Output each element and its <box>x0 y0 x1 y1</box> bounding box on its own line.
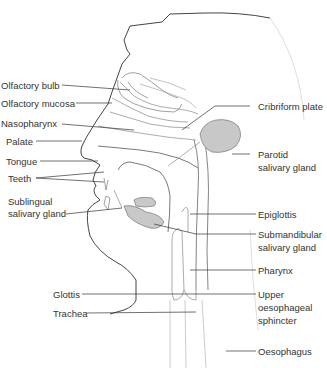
label-teeth: Teeth <box>8 173 31 184</box>
head-profile-outline <box>81 13 270 314</box>
label-olfactory-bulb: Olfactory bulb <box>1 80 60 91</box>
airway-tube <box>172 228 196 300</box>
brain-base <box>140 78 196 108</box>
label-sublingual-line1: Sublingual <box>8 196 52 207</box>
label-cribriform-plate: Cribriform plate <box>258 101 323 112</box>
label-oesophagus: Oesophagus <box>258 346 312 357</box>
label-submandibular-line2: salivary gland <box>258 242 316 253</box>
label-upper-oesophageal-line1: Upper <box>258 289 284 300</box>
parotid-gland <box>168 120 241 166</box>
label-olfactory-mucosa: Olfactory mucosa <box>1 98 75 109</box>
teeth-shape <box>104 178 110 210</box>
nasal-cavity <box>98 82 198 140</box>
sublingual-gland <box>134 197 156 207</box>
label-glottis: Glottis <box>53 289 80 300</box>
label-trachea: Trachea <box>53 308 88 319</box>
label-upper-oesophageal-line2: oesophageal <box>258 302 312 313</box>
label-tongue: Tongue <box>6 156 37 167</box>
label-palate: Palate <box>6 136 33 147</box>
gland-duct <box>114 190 122 208</box>
label-nasopharynx: Nasopharynx <box>1 118 57 129</box>
pharynx-wall <box>194 136 209 290</box>
label-sublingual-line2: salivary gland <box>8 208 66 219</box>
label-upper-oesophageal-line3: sphincter <box>258 315 297 326</box>
label-parotid-line1: Parotid <box>258 149 288 160</box>
neck-back <box>250 18 304 330</box>
epiglottis-shape <box>182 207 188 232</box>
label-pharynx: Pharynx <box>258 265 293 276</box>
label-submandibular-line1: Submandibular <box>258 229 322 240</box>
label-parotid-line2: salivary gland <box>258 162 316 173</box>
oesophagus-tube <box>170 300 206 368</box>
label-epiglottis: Epiglottis <box>258 209 297 220</box>
palate-outline <box>98 146 198 168</box>
